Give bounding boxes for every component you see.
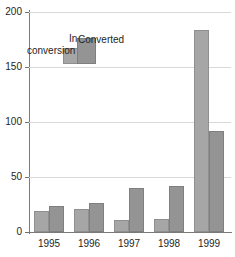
tick-mark bbox=[25, 67, 29, 68]
x-tick-label-1997: 1997 bbox=[118, 238, 140, 249]
tick-mark bbox=[25, 232, 29, 233]
y-tick-label: 50 bbox=[11, 172, 22, 182]
legend-label-in-conversion-line1: In bbox=[69, 33, 77, 44]
y-tick-label: 0 bbox=[16, 227, 22, 237]
bar-1998-in-conversion bbox=[154, 219, 169, 232]
bar-1996-converted bbox=[89, 203, 104, 232]
x-axis-line bbox=[29, 232, 232, 233]
x-tick-label-1999: 1999 bbox=[198, 238, 220, 249]
legend-label-converted: Converted bbox=[78, 34, 124, 45]
y-tick-label: 150 bbox=[5, 62, 22, 72]
gridline bbox=[29, 12, 231, 13]
y-tick-label: 200 bbox=[5, 7, 22, 17]
y-tick-label: 100 bbox=[5, 117, 22, 127]
bar-chart: 200 150 100 50 0 bbox=[0, 0, 235, 257]
legend-label-in-conversion-line2: conversion bbox=[27, 45, 75, 56]
x-tick-label-1996: 1996 bbox=[78, 238, 100, 249]
legend-swatch-converted bbox=[77, 38, 96, 64]
bar-1998-converted bbox=[169, 186, 184, 232]
bar-1997-converted bbox=[129, 188, 144, 232]
tick-mark bbox=[25, 122, 29, 123]
bar-1999-converted bbox=[209, 131, 224, 232]
tick-mark bbox=[25, 177, 29, 178]
tick-mark bbox=[25, 12, 29, 13]
bar-1999-in-conversion bbox=[194, 30, 209, 232]
plot-area: 200 150 100 50 0 bbox=[29, 12, 231, 232]
legend-swatch-in-conversion bbox=[63, 48, 78, 64]
bar-1995-converted bbox=[49, 206, 64, 232]
bar-1996-in-conversion bbox=[74, 209, 89, 232]
x-tick-label-1998: 1998 bbox=[158, 238, 180, 249]
bar-1995-in-conversion bbox=[34, 211, 49, 232]
bar-1997-in-conversion bbox=[114, 220, 129, 232]
x-tick-label-1995: 1995 bbox=[38, 238, 60, 249]
